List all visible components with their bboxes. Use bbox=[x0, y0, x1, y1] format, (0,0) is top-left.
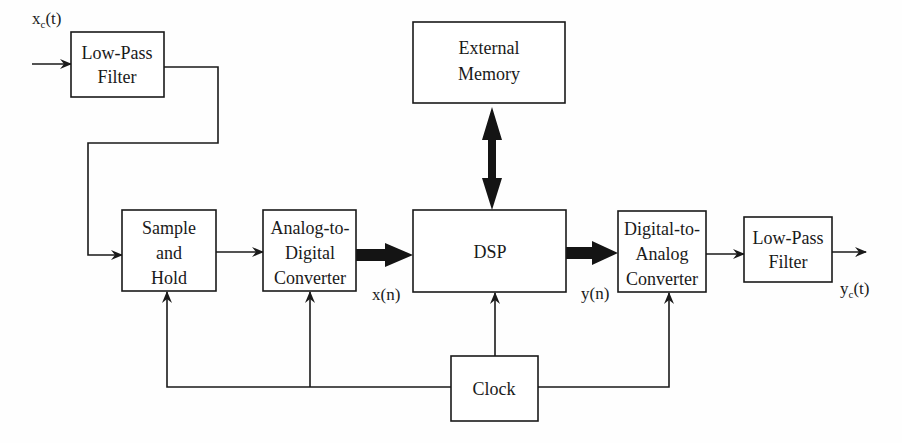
block-dac: Digital-to- Analog Converter bbox=[618, 211, 706, 292]
block-clock: Clock bbox=[451, 356, 538, 421]
block-label: Low-Pass bbox=[753, 228, 824, 248]
dsp-system-block-diagram: Low-Pass Filter Sample and Hold Analog-t… bbox=[0, 0, 902, 443]
adc-to-dsp-bus-arrow bbox=[356, 243, 413, 267]
block-label: Filter bbox=[769, 252, 808, 272]
block-label: Analog-to- bbox=[271, 218, 350, 238]
block-label: Memory bbox=[458, 64, 520, 84]
clock-to-sample-hold-wire bbox=[167, 292, 451, 387]
input-signal-label: xc(t) bbox=[32, 9, 61, 30]
dsp-to-dac-bus-arrow bbox=[566, 241, 618, 265]
block-lpf-output: Low-Pass Filter bbox=[744, 217, 832, 282]
block-sample-hold: Sample and Hold bbox=[122, 210, 216, 291]
block-external-memory: External Memory bbox=[413, 22, 565, 103]
block-label: and bbox=[156, 243, 182, 263]
block-label: Hold bbox=[151, 268, 187, 288]
block-label: Sample bbox=[142, 218, 196, 238]
block-label: External bbox=[459, 38, 520, 58]
memory-dsp-bidirectional-arrow bbox=[482, 107, 502, 210]
block-label: Analog bbox=[636, 244, 689, 264]
block-dsp: DSP bbox=[413, 210, 566, 292]
block-label: Filter bbox=[98, 67, 137, 87]
block-label: DSP bbox=[473, 242, 506, 262]
block-label: Digital bbox=[285, 243, 335, 263]
block-lpf-input: Low-Pass Filter bbox=[71, 32, 164, 97]
clock-to-dac-wire bbox=[538, 293, 669, 387]
block-label: Clock bbox=[473, 379, 516, 399]
block-label: Converter bbox=[626, 269, 698, 289]
block-label: Low-Pass bbox=[82, 43, 153, 63]
dsp-output-signal-label: y(n) bbox=[581, 284, 609, 303]
adc-output-signal-label: x(n) bbox=[372, 285, 400, 304]
block-label: Converter bbox=[274, 268, 346, 288]
output-signal-label: yc(t) bbox=[840, 279, 869, 300]
block-label: Digital-to- bbox=[624, 219, 700, 239]
block-adc: Analog-to- Digital Converter bbox=[263, 210, 356, 291]
